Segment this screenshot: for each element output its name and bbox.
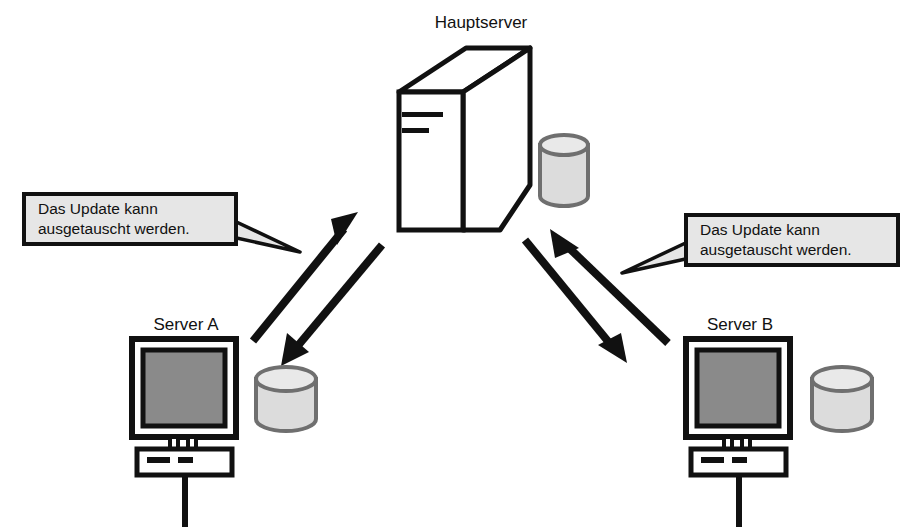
callout-right-line2: ausgetauscht werden. [700,241,852,258]
callout-left-line2: ausgetauscht werden. [38,220,190,237]
server-b-base-slot-1 [701,457,724,463]
server-a-base-slot-2 [178,457,193,463]
server-a-disk-cylinder-icon [256,367,316,431]
server-b-base-slot-2 [732,457,747,463]
server-a-label: Server A [153,315,219,334]
server-slot-upper [402,112,443,117]
server-b-disk-cylinder-icon [812,367,872,431]
network-diagram: Hauptserver Das Update kann ausge [0,0,922,527]
callout-left-line1: Das Update kann [38,200,158,217]
diagram-canvas: Hauptserver Das Update kann ausge [0,0,922,527]
server-slot-lower [402,128,429,133]
server-b-label: Server B [707,315,773,334]
callout-right-line1: Das Update kann [700,221,820,238]
main-server-disk-cylinder-icon [540,135,588,206]
server-a-screen [143,350,225,426]
server-b-screen [697,350,779,426]
server-a-base-slot-1 [147,457,170,463]
main-server-label: Hauptserver [435,13,528,32]
